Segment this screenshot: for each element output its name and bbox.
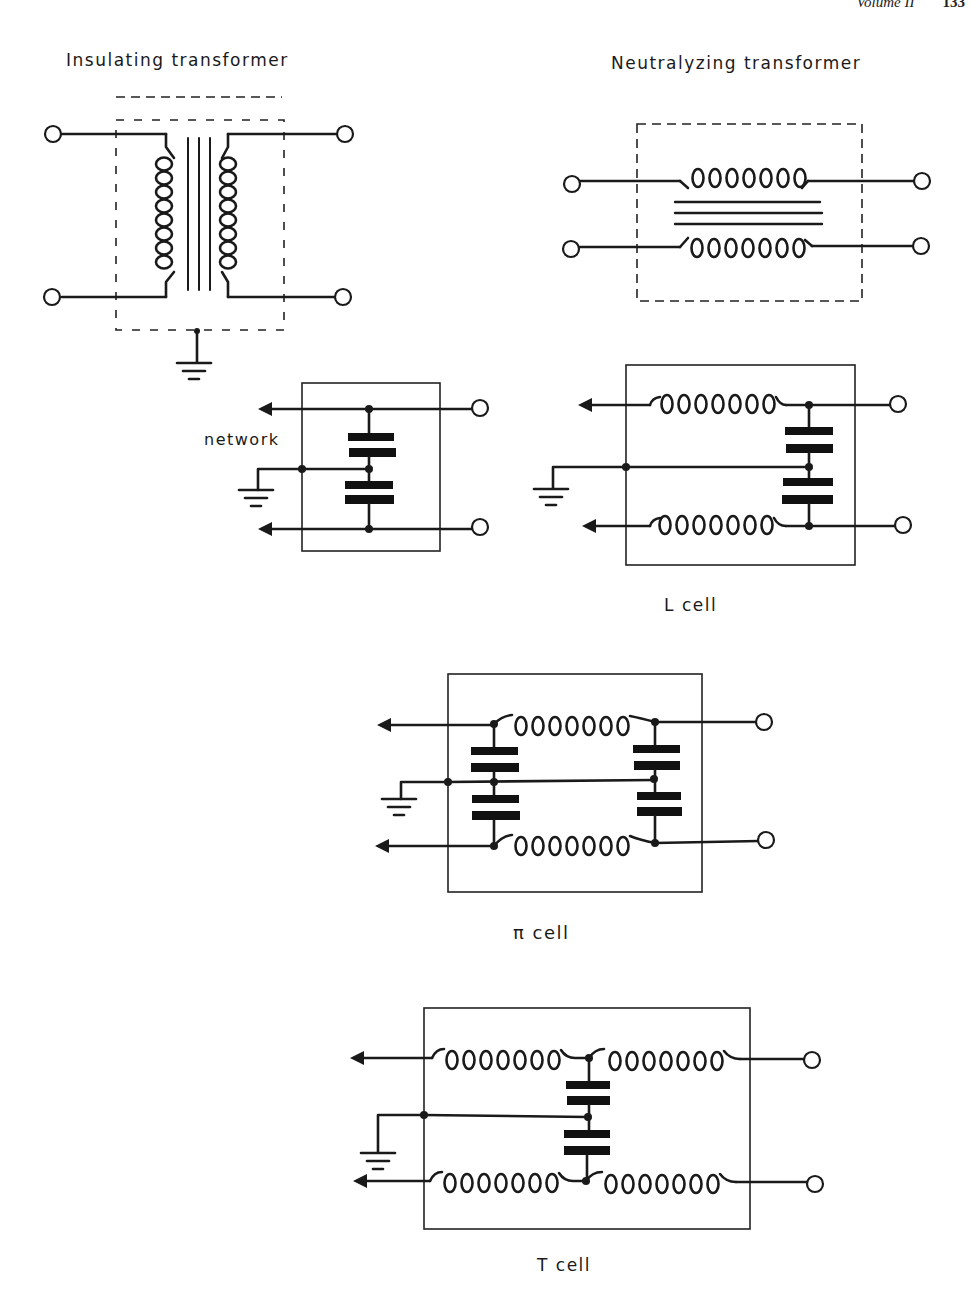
terminal-out-top: [914, 173, 930, 189]
l-cell-diagram: [534, 365, 911, 565]
terminal-in-top: [45, 126, 61, 142]
terminal-out-bottom: [335, 289, 351, 305]
primary-coil: [156, 158, 172, 269]
secondary-coil: [220, 158, 236, 269]
ground-icon: [239, 490, 273, 506]
ground-icon: [361, 1153, 395, 1169]
terminal-top: [472, 400, 488, 416]
arrow-left-icon: [258, 402, 272, 416]
terminal-in-bottom: [563, 241, 579, 257]
arrow-left-icon: [258, 522, 272, 536]
terminal-bottom: [895, 517, 911, 533]
terminal-out-top: [337, 126, 353, 142]
top-winding: [693, 169, 806, 187]
ground-icon: [177, 363, 211, 379]
neutralizing-transformer-diagram: [563, 124, 930, 301]
terminal-in-top: [564, 176, 580, 192]
ground-icon: [534, 489, 568, 505]
terminal-bottom: [758, 832, 774, 848]
terminal-top: [890, 396, 906, 412]
insulating-transformer-diagram: [44, 97, 353, 379]
bottom-winding: [692, 239, 805, 257]
t-cell-diagram: [350, 1008, 823, 1229]
terminal-top: [804, 1052, 820, 1068]
pi-cell-diagram: [375, 674, 774, 892]
terminal-bottom: [807, 1176, 823, 1192]
capacitor-network-diagram: [239, 383, 488, 551]
terminal-in-bottom: [44, 289, 60, 305]
terminal-top: [756, 714, 772, 730]
terminal-bottom: [472, 519, 488, 535]
terminal-out-bottom: [913, 238, 929, 254]
ground-icon: [382, 799, 416, 815]
